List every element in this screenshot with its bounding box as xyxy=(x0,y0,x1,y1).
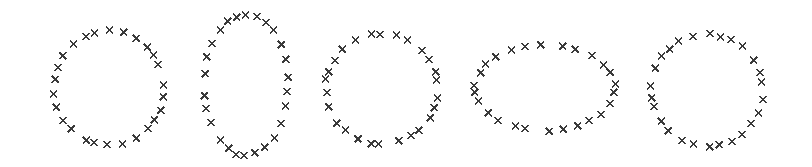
x-marker-icon xyxy=(368,140,375,147)
x-marker-icon xyxy=(333,120,340,127)
x-marker-icon xyxy=(393,31,400,38)
x-marker-icon xyxy=(282,102,289,109)
x-marker-icon xyxy=(431,104,438,111)
x-marker-icon xyxy=(598,111,605,118)
x-marker-icon xyxy=(728,36,735,43)
x-marker-icon xyxy=(755,110,762,117)
x-marker-icon xyxy=(352,37,359,44)
x-marker-icon xyxy=(202,105,209,112)
x-marker-icon xyxy=(522,43,529,50)
x-marker-icon xyxy=(706,143,713,150)
x-marker-icon xyxy=(589,52,596,59)
x-marker-icon xyxy=(546,128,553,135)
x-marker-icon xyxy=(585,117,592,124)
x-marker-icon xyxy=(241,152,248,159)
x-marker-icon xyxy=(133,35,140,42)
x-marker-icon xyxy=(612,81,619,88)
x-marker-icon xyxy=(665,127,672,134)
x-marker-icon xyxy=(610,89,617,96)
x-marker-icon xyxy=(342,127,349,134)
x-marker-icon xyxy=(756,69,763,76)
x-marker-icon xyxy=(647,82,654,89)
x-marker-icon xyxy=(560,126,567,133)
x-marker-icon xyxy=(658,53,665,60)
marker-group-shape-4-wide-ellipse xyxy=(471,41,619,134)
x-marker-icon xyxy=(368,31,375,38)
x-marker-icon xyxy=(233,14,240,21)
x-marker-icon xyxy=(690,140,697,147)
x-marker-icon xyxy=(477,69,484,76)
x-marker-icon xyxy=(270,27,277,34)
x-marker-icon xyxy=(52,76,59,83)
x-marker-icon xyxy=(325,68,332,75)
x-marker-icon xyxy=(282,56,289,63)
x-marker-icon xyxy=(471,82,478,89)
x-marker-icon xyxy=(225,145,232,152)
x-marker-icon xyxy=(652,65,659,72)
x-marker-icon xyxy=(104,141,111,148)
x-marker-icon xyxy=(648,94,655,101)
x-marker-icon xyxy=(376,31,383,38)
x-marker-icon xyxy=(202,70,209,77)
x-marker-icon xyxy=(160,93,167,100)
x-marker-icon xyxy=(559,43,566,50)
x-marker-icon xyxy=(415,127,422,134)
x-marker-icon xyxy=(485,109,492,116)
x-marker-icon xyxy=(689,33,696,40)
scatter-plot xyxy=(0,0,812,167)
x-marker-icon xyxy=(82,33,89,40)
x-marker-icon xyxy=(748,120,755,127)
x-marker-icon xyxy=(508,47,515,54)
x-marker-icon xyxy=(606,100,613,107)
x-marker-icon xyxy=(572,46,579,53)
x-marker-icon xyxy=(217,136,224,143)
x-marker-icon xyxy=(492,53,499,60)
x-marker-icon xyxy=(675,38,682,45)
x-marker-icon xyxy=(325,103,332,110)
x-marker-icon xyxy=(106,26,113,33)
x-marker-icon xyxy=(261,144,268,151)
x-marker-icon xyxy=(90,139,97,146)
x-marker-icon xyxy=(433,76,440,83)
x-marker-icon xyxy=(432,68,439,75)
x-marker-icon xyxy=(251,149,258,156)
x-marker-icon xyxy=(607,69,614,76)
x-marker-icon xyxy=(666,46,673,53)
x-marker-icon xyxy=(119,141,126,148)
x-marker-icon xyxy=(758,78,765,85)
x-marker-icon xyxy=(150,52,157,59)
x-marker-icon xyxy=(339,46,346,53)
x-marker-icon xyxy=(574,122,581,129)
x-marker-icon xyxy=(407,132,414,139)
x-marker-icon xyxy=(203,53,210,60)
x-marker-icon xyxy=(217,27,224,34)
x-marker-icon xyxy=(232,151,239,158)
x-marker-icon xyxy=(537,41,544,48)
x-marker-icon xyxy=(427,114,434,121)
x-marker-icon xyxy=(242,12,249,19)
x-marker-icon xyxy=(224,18,231,25)
x-marker-icon xyxy=(70,40,77,47)
marker-group-shape-5-circle xyxy=(647,30,766,150)
x-marker-icon xyxy=(157,107,164,114)
x-marker-icon xyxy=(521,125,528,132)
x-marker-icon xyxy=(120,29,127,36)
x-marker-icon xyxy=(271,135,278,142)
figure-canvas xyxy=(0,0,812,167)
x-marker-icon xyxy=(434,95,441,102)
x-marker-icon xyxy=(650,103,657,110)
x-marker-icon xyxy=(154,61,161,68)
x-marker-icon xyxy=(475,97,482,104)
x-marker-icon xyxy=(59,117,66,124)
x-marker-icon xyxy=(679,137,686,144)
x-marker-icon xyxy=(706,30,713,37)
x-marker-icon xyxy=(426,56,433,63)
x-marker-icon xyxy=(471,89,478,96)
x-marker-icon xyxy=(375,141,382,148)
x-marker-icon xyxy=(324,89,331,96)
x-marker-icon xyxy=(739,43,746,50)
x-marker-icon xyxy=(717,33,724,40)
x-marker-icon xyxy=(55,64,62,71)
x-marker-icon xyxy=(68,125,75,132)
x-marker-icon xyxy=(482,60,489,67)
